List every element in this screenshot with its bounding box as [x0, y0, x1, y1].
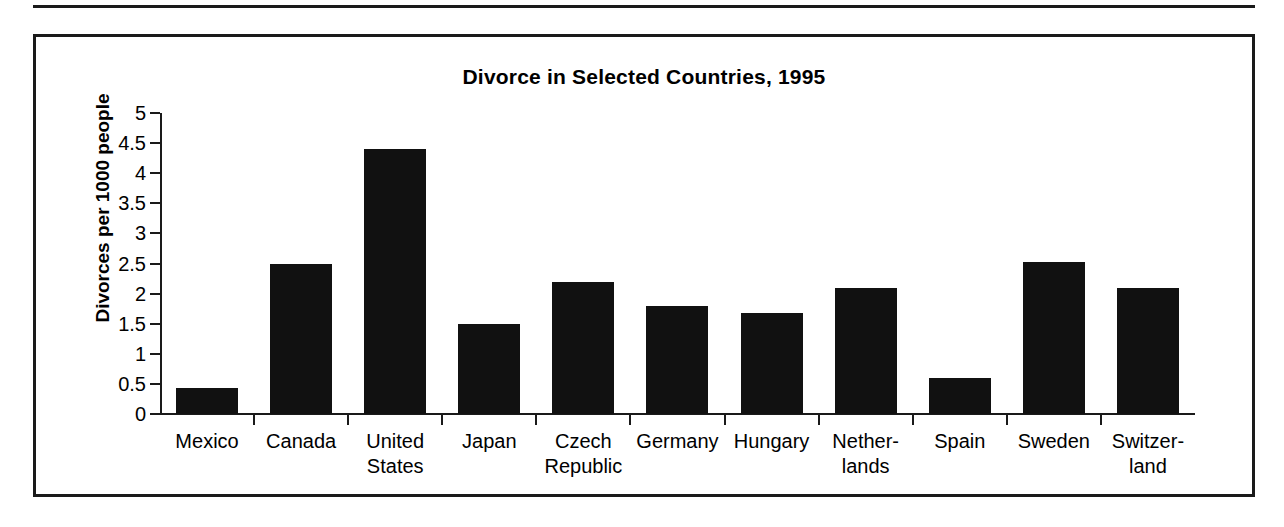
x-axis-label-line: Hungary — [725, 429, 819, 454]
y-axis-tick — [150, 383, 160, 385]
y-axis-tick — [150, 232, 160, 234]
x-axis-label-sweden: Sweden — [1007, 429, 1101, 454]
y-axis-tick — [150, 112, 160, 114]
y-axis-tick-label: 2 — [86, 284, 146, 304]
x-axis-tick — [1100, 414, 1102, 425]
figure-page: Divorce in Selected Countries, 1995 Divo… — [0, 0, 1284, 527]
x-axis-label-united-states: UnitedStates — [348, 429, 442, 479]
x-axis-label-line: Switzer- — [1101, 429, 1195, 454]
bar-mexico[interactable] — [176, 388, 238, 414]
x-axis-label-line: Canada — [254, 429, 348, 454]
y-axis-tick-label: 3 — [86, 223, 146, 243]
x-axis-label-czech-republic: CzechRepublic — [536, 429, 630, 479]
bar-slot — [630, 113, 724, 414]
bar-hungary[interactable] — [741, 313, 803, 414]
x-axis-label-line: Republic — [536, 454, 630, 479]
x-axis-label-spain: Spain — [913, 429, 1007, 454]
y-axis-tick — [150, 263, 160, 265]
bar-slot — [913, 113, 1007, 414]
y-axis-tick — [150, 172, 160, 174]
x-axis-tick — [818, 414, 820, 425]
y-axis-tick-label: 2.5 — [86, 254, 146, 274]
x-axis-label-line: United — [348, 429, 442, 454]
y-axis-tick-label: 0.5 — [86, 374, 146, 394]
x-axis-label-line: Nether- — [819, 429, 913, 454]
x-axis-tick — [253, 414, 255, 425]
bar-slot — [254, 113, 348, 414]
y-axis-tick-label: 1 — [86, 344, 146, 364]
y-axis-tick — [150, 293, 160, 295]
bar-germany[interactable] — [646, 306, 708, 414]
x-axis-label-line: Spain — [913, 429, 1007, 454]
y-axis-tick-label: 4.5 — [86, 133, 146, 153]
bar-slot — [536, 113, 630, 414]
bar-slot — [1101, 113, 1195, 414]
x-axis-tick — [535, 414, 537, 425]
x-axis-label-mexico: Mexico — [160, 429, 254, 454]
bar-canada[interactable] — [270, 264, 332, 415]
y-axis-tick-label: 0 — [86, 404, 146, 424]
x-axis-label-canada: Canada — [254, 429, 348, 454]
bar-sweden[interactable] — [1023, 262, 1085, 414]
bar-slot — [348, 113, 442, 414]
x-axis-label-japan: Japan — [442, 429, 536, 454]
bar-slot — [1007, 113, 1101, 414]
x-axis-label-line: Germany — [630, 429, 724, 454]
x-axis-label-line: land — [1101, 454, 1195, 479]
x-axis-label-line: States — [348, 454, 442, 479]
x-axis-tick — [724, 414, 726, 425]
x-axis-tick — [347, 414, 349, 425]
x-axis-label-line: Japan — [442, 429, 536, 454]
x-axis-label-netherlands: Nether-lands — [819, 429, 913, 479]
y-axis-tick — [150, 142, 160, 144]
top-rule-divider — [33, 5, 1255, 8]
y-axis-tick — [150, 202, 160, 204]
y-axis-tick-label: 5 — [86, 103, 146, 123]
bar-czech-republic[interactable] — [552, 282, 614, 414]
bar-slot — [725, 113, 819, 414]
y-axis-tick-label: 4 — [86, 163, 146, 183]
x-axis-label-line: Mexico — [160, 429, 254, 454]
plot-area: 00.511.522.533.544.55 — [160, 113, 1195, 414]
bar-spain[interactable] — [929, 378, 991, 414]
bar-japan[interactable] — [458, 324, 520, 414]
bar-netherlands[interactable] — [835, 288, 897, 414]
x-axis-label-germany: Germany — [630, 429, 724, 454]
bar-slot — [442, 113, 536, 414]
bar-slot — [819, 113, 913, 414]
bar-switzerland[interactable] — [1117, 288, 1179, 414]
x-axis-label-line: lands — [819, 454, 913, 479]
x-axis-label-line: Sweden — [1007, 429, 1101, 454]
bar-slot — [160, 113, 254, 414]
bar-series — [160, 113, 1195, 414]
x-axis-label-hungary: Hungary — [725, 429, 819, 454]
chart-figure-frame: Divorce in Selected Countries, 1995 Divo… — [33, 34, 1255, 497]
bar-united-states[interactable] — [364, 149, 426, 414]
y-axis-tick — [150, 353, 160, 355]
x-axis-tick — [629, 414, 631, 425]
x-axis-tick — [1006, 414, 1008, 425]
x-axis-tick — [441, 414, 443, 425]
x-axis-labels: MexicoCanadaUnitedStatesJapanCzechRepubl… — [160, 429, 1195, 499]
x-axis-label-switzerland: Switzer-land — [1101, 429, 1195, 479]
x-axis-tick — [912, 414, 914, 425]
x-axis-label-line: Czech — [536, 429, 630, 454]
y-axis-tick — [150, 323, 160, 325]
y-axis-tick-label: 3.5 — [86, 193, 146, 213]
y-axis-tick — [150, 413, 160, 415]
chart-title: Divorce in Selected Countries, 1995 — [36, 65, 1252, 89]
y-axis-tick-label: 1.5 — [86, 314, 146, 334]
